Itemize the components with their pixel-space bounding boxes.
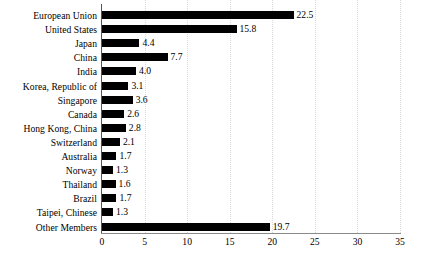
category-label: Singapore [0,94,97,105]
bar-group: 1.3 [102,166,128,174]
category-label: Taipei, Chinese [0,207,97,218]
bar-row: India4.0 [0,64,428,78]
bar-value-label: 1.7 [119,193,131,203]
bar-row: Norway1.3 [0,163,428,177]
x-tick-label: 30 [353,236,363,247]
category-label: China [0,52,97,63]
bar [102,223,270,231]
bar-group: 1.6 [102,180,131,188]
bar [102,138,120,146]
bar-value-label: 1.6 [119,179,131,189]
bar [102,39,139,47]
x-tick-label: 25 [310,236,320,247]
bar-row: Canada2.6 [0,107,428,121]
bar-row: Brazil1.7 [0,191,428,205]
bar-row: Japan4.4 [0,36,428,50]
bar-group: 3.6 [102,96,148,104]
bar-row: European Union22.5 [0,8,428,22]
category-label: Other Members [0,221,97,232]
bar-group: 22.5 [102,11,313,19]
bar [102,166,113,174]
bar-value-label: 19.7 [273,222,290,232]
bar-row: Other Members19.7 [0,220,428,234]
x-tick-label: 15 [225,236,235,247]
bar-group: 1.3 [102,208,128,216]
category-label: Canada [0,108,97,119]
bar-group: 15.8 [102,25,256,33]
x-tick-label: 0 [100,236,105,247]
bar [102,25,237,33]
bar-row: Taipei, Chinese1.3 [0,205,428,219]
bar-value-label: 2.1 [123,137,135,147]
bar-row: China7.7 [0,50,428,64]
bar [102,124,126,132]
bar-group: 1.7 [102,194,131,202]
bar-row: Singapore3.6 [0,93,428,107]
category-label: Australia [0,151,97,162]
bar-group: 4.0 [102,67,151,75]
bar-group: 2.1 [102,138,135,146]
bar [102,82,128,90]
bar-row: United States15.8 [0,22,428,36]
bar-group: 19.7 [102,223,290,231]
bar [102,11,294,19]
bar-value-label: 22.5 [297,10,314,20]
horizontal-bar-chart: European Union22.5United States15.8Japan… [0,0,428,261]
x-tick-label: 20 [267,236,277,247]
bar-row: Switzerland2.1 [0,135,428,149]
bar [102,194,116,202]
bar [102,96,133,104]
category-label: European Union [0,10,97,21]
category-label: Japan [0,38,97,49]
x-axis-line [101,233,401,234]
category-label: Norway [0,165,97,176]
bar-group: 3.1 [102,82,143,90]
bar-value-label: 1.3 [116,207,128,217]
bar-value-label: 7.7 [171,52,183,62]
bar-value-label: 1.3 [116,165,128,175]
category-label: Switzerland [0,136,97,147]
bar [102,53,168,61]
bar-group: 2.6 [102,110,139,118]
x-tick-label: 5 [142,236,147,247]
bar-row: Thailand1.6 [0,177,428,191]
bar [102,67,136,75]
bar-value-label: 4.0 [139,66,151,76]
bar-group: 7.7 [102,53,183,61]
category-label: India [0,66,97,77]
bar-row: Korea, Republic of3.1 [0,79,428,93]
bar [102,208,113,216]
bar [102,152,116,160]
x-tick-label: 35 [395,236,405,247]
bar-value-label: 3.6 [136,95,148,105]
bar-value-label: 2.6 [127,109,139,119]
bar-group: 2.8 [102,124,141,132]
bar-value-label: 15.8 [240,24,257,34]
category-label: United States [0,24,97,35]
bar-row: Australia1.7 [0,149,428,163]
category-label: Brazil [0,193,97,204]
x-tick-label: 10 [182,236,192,247]
bar-group: 4.4 [102,39,154,47]
category-label: Hong Kong, China [0,122,97,133]
bar [102,110,124,118]
bar-value-label: 2.8 [129,123,141,133]
bar-value-label: 3.1 [131,81,143,91]
bar [102,180,116,188]
bar-value-label: 1.7 [119,151,131,161]
category-label: Korea, Republic of [0,80,97,91]
bar-row: Hong Kong, China2.8 [0,121,428,135]
bar-value-label: 4.4 [142,38,154,48]
bar-group: 1.7 [102,152,131,160]
category-label: Thailand [0,179,97,190]
